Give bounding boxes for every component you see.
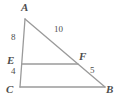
segment-ac <box>20 19 25 87</box>
vertex-label-a: A <box>21 2 28 13</box>
measure-label-af: 10 <box>54 25 63 34</box>
vertex-label-b: B <box>106 84 113 95</box>
vertex-label-e: E <box>7 55 14 66</box>
measure-label-fb: 5 <box>90 66 95 75</box>
measure-label-ae: 8 <box>11 33 16 42</box>
segment-ab <box>25 19 105 87</box>
vertex-label-c: C <box>6 84 13 95</box>
geometry-diagram: A E C F B 8 4 10 5 <box>0 0 120 106</box>
measure-label-ec: 4 <box>11 67 16 76</box>
geometry-figure <box>0 0 120 106</box>
vertex-label-f: F <box>79 51 86 62</box>
